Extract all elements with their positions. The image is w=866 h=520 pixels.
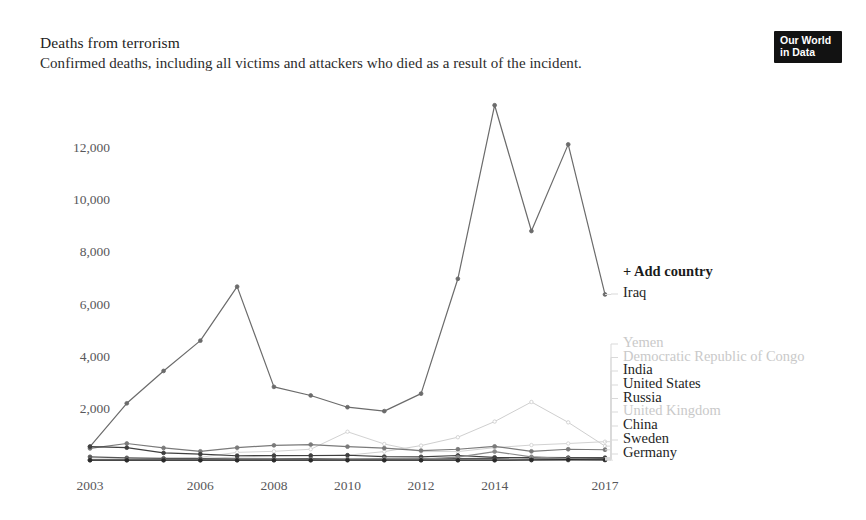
data-point[interactable]	[456, 277, 460, 281]
line-chart: 2,0004,0006,0008,00010,00012,000 2003200…	[0, 0, 866, 520]
data-point[interactable]	[272, 458, 276, 462]
data-point[interactable]	[235, 446, 239, 450]
data-point[interactable]	[162, 446, 166, 450]
chart-svg: 2,0004,0006,0008,00010,00012,000 2003200…	[0, 0, 866, 520]
data-point[interactable]	[309, 448, 312, 451]
data-point[interactable]	[162, 369, 166, 373]
data-point[interactable]	[566, 142, 570, 146]
x-tick-2010: 2010	[334, 478, 361, 493]
x-tick-2017: 2017	[592, 478, 619, 493]
data-point[interactable]	[382, 458, 386, 462]
data-point[interactable]	[567, 442, 570, 445]
data-point[interactable]	[309, 394, 313, 398]
x-axis-tick-labels: 2003200620082010201220142017	[77, 478, 619, 493]
y-tick-8000: 8,000	[80, 244, 111, 259]
data-point[interactable]	[346, 405, 350, 409]
data-point[interactable]	[346, 445, 350, 449]
x-tick-2012: 2012	[408, 478, 435, 493]
data-point[interactable]	[309, 458, 313, 462]
data-point[interactable]	[235, 458, 239, 462]
data-point[interactable]	[530, 229, 534, 233]
data-point[interactable]	[493, 420, 496, 423]
x-tick-2008: 2008	[260, 478, 287, 493]
data-point[interactable]	[493, 450, 497, 454]
data-point[interactable]	[346, 430, 349, 433]
data-point[interactable]	[162, 458, 166, 462]
data-point[interactable]	[419, 449, 423, 453]
data-point[interactable]	[493, 103, 497, 107]
x-tick-2006: 2006	[187, 478, 214, 493]
y-tick-6000: 6,000	[80, 297, 111, 312]
data-point[interactable]	[125, 446, 129, 450]
data-point[interactable]	[272, 454, 276, 458]
y-tick-10000: 10,000	[73, 192, 110, 207]
data-point[interactable]	[125, 442, 129, 446]
y-tick-2000: 2,000	[80, 401, 111, 416]
data-point[interactable]	[530, 458, 534, 462]
y-axis-tick-labels: 2,0004,0006,0008,00010,00012,000	[73, 140, 110, 416]
data-point[interactable]	[272, 450, 275, 453]
legend-item-germany[interactable]: Germany	[623, 444, 678, 460]
data-point[interactable]	[419, 458, 423, 462]
data-point[interactable]	[272, 443, 276, 447]
data-point[interactable]	[456, 447, 460, 451]
legend-connector-iraq	[605, 294, 618, 295]
data-point[interactable]	[88, 458, 92, 462]
data-point[interactable]	[162, 451, 166, 455]
data-point[interactable]	[235, 454, 239, 458]
legend-connectors	[605, 294, 618, 460]
data-point[interactable]	[382, 446, 386, 450]
data-point[interactable]	[566, 458, 570, 462]
y-tick-4000: 4,000	[80, 349, 111, 364]
x-tick-2003: 2003	[77, 478, 104, 493]
data-point[interactable]	[235, 285, 239, 289]
y-tick-12000: 12,000	[73, 140, 110, 155]
data-point[interactable]	[566, 447, 570, 451]
data-point[interactable]	[272, 385, 276, 389]
data-point[interactable]	[125, 458, 129, 462]
data-point[interactable]	[346, 458, 350, 462]
legend-item-iraq[interactable]: Iraq	[623, 284, 646, 300]
data-point[interactable]	[88, 445, 92, 449]
x-tick-2014: 2014	[481, 478, 508, 493]
data-point[interactable]	[530, 449, 534, 453]
data-point[interactable]	[198, 458, 202, 462]
data-point[interactable]	[419, 392, 423, 396]
data-point[interactable]	[198, 339, 202, 343]
data-point[interactable]	[125, 401, 129, 405]
data-point[interactable]	[530, 443, 533, 446]
data-point[interactable]	[419, 444, 422, 447]
series-line-iraq[interactable]	[90, 105, 605, 446]
add-country-button[interactable]: + Add country	[623, 263, 713, 279]
data-point[interactable]	[456, 436, 459, 439]
data-point[interactable]	[530, 400, 533, 403]
data-point[interactable]	[493, 458, 497, 462]
chart-legend: IraqYemenDemocratic Republic of CongoInd…	[623, 284, 805, 460]
data-point[interactable]	[198, 452, 202, 456]
data-point[interactable]	[383, 442, 386, 445]
add-country-control[interactable]: + Add country	[623, 263, 713, 279]
data-point[interactable]	[309, 443, 313, 447]
data-point[interactable]	[346, 453, 350, 457]
data-point[interactable]	[309, 454, 313, 458]
series-layer	[88, 103, 607, 462]
data-point[interactable]	[567, 421, 570, 424]
data-point[interactable]	[456, 458, 460, 462]
data-point[interactable]	[493, 444, 497, 448]
data-point[interactable]	[382, 409, 386, 413]
